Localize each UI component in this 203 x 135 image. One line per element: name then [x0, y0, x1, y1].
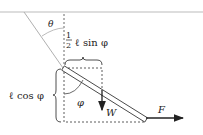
half-numerator: 1: [66, 31, 71, 40]
phi-label: φ: [77, 97, 84, 108]
force-label: F: [157, 104, 166, 115]
weight-label: W: [106, 107, 117, 118]
top-brace: [65, 57, 102, 65]
theta-label: θ: [48, 19, 54, 29]
rod-force-diagram: θ 1 2 ℓ sin φ φ ℓ cos φ W F: [0, 0, 203, 135]
theta-arc: [42, 28, 64, 36]
sin-expression: ℓ sin φ: [75, 37, 108, 48]
half-denominator: 2: [66, 41, 71, 50]
cos-expression: ℓ cos φ: [9, 90, 44, 101]
left-brace: [53, 69, 61, 122]
string-line: [24, 12, 63, 68]
rod: [62, 66, 148, 122]
